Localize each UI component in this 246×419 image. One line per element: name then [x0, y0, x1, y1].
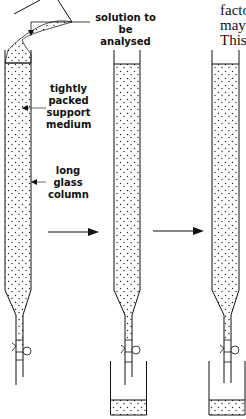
chromatography-diagram: [0, 0, 246, 419]
column-3: [209, 50, 245, 415]
solution-label: solution to be analysed: [88, 12, 163, 48]
glass-column-line2: glass: [48, 177, 88, 189]
side-text-line3: This: [220, 33, 246, 47]
glass-column-line1: long: [48, 165, 88, 177]
support-medium-line3: support: [46, 107, 91, 119]
column-1: [5, 21, 72, 385]
pouring-vessel: [14, 0, 90, 36]
glass-column-line3: column: [48, 189, 88, 201]
column-2: [111, 50, 147, 415]
solution-label-line1: solution to be: [88, 12, 163, 36]
side-text-line1: facto: [220, 3, 246, 17]
side-text-line2: may: [220, 18, 246, 32]
support-medium-line1: tightly: [46, 83, 91, 95]
support-medium-line2: packed: [46, 95, 91, 107]
glass-column-label: long glass column: [48, 165, 88, 201]
solution-label-line2: analysed: [88, 36, 163, 48]
support-medium-label: tightly packed support medium: [46, 83, 91, 131]
support-medium-line4: medium: [46, 119, 91, 131]
